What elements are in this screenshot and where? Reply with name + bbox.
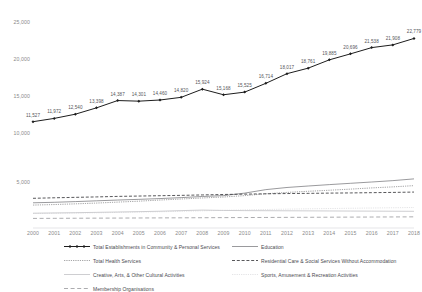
legend-item[interactable]: Sports, Amusement & Recreation Activitie… (232, 271, 358, 278)
legend-item[interactable]: Creative, Arts, & Other Cultural Activit… (64, 271, 185, 278)
x-tick-label: 2013 (300, 230, 316, 236)
x-tick-label: 2009 (216, 230, 232, 236)
legend-line-icon (64, 243, 90, 250)
x-tick-label: 2012 (279, 230, 295, 236)
x-tick-label: 2005 (131, 230, 147, 236)
x-tick-label: 2016 (364, 230, 380, 236)
legend-item[interactable]: Residential Care & Social Services Witho… (232, 257, 396, 264)
legend-line-icon (232, 271, 258, 278)
x-tick-label: 2008 (194, 230, 210, 236)
x-tick-label: 2000 (25, 230, 41, 236)
legend-label: Education (261, 244, 284, 250)
x-tick-label: 2015 (343, 230, 359, 236)
x-tick-label: 2002 (67, 230, 83, 236)
legend-item[interactable]: Education (232, 243, 284, 250)
chart-legend: Total Establishments in Community & Pers… (0, 243, 422, 289)
x-tick-label: 2018 (406, 230, 422, 236)
legend-label: Sports, Amusement & Recreation Activitie… (261, 272, 358, 278)
x-tick-label: 2001 (46, 230, 62, 236)
legend-label: Residential Care & Social Services Witho… (261, 258, 396, 264)
legend-label: Membership Organisations (93, 286, 154, 292)
legend-line-icon (232, 243, 258, 250)
legend-line-icon (64, 285, 90, 292)
legend-line-icon (64, 257, 90, 264)
legend-item[interactable]: Total Health Services (64, 257, 141, 264)
legend-item[interactable]: Membership Organisations (64, 285, 154, 292)
legend-item[interactable]: Total Establishments in Community & Pers… (64, 243, 220, 250)
x-tick-label: 2014 (321, 230, 337, 236)
x-tick-label: 2004 (110, 230, 126, 236)
series-line (33, 179, 414, 203)
series-line (33, 217, 414, 219)
legend-line-icon (232, 257, 258, 264)
x-tick-label: 2003 (89, 230, 105, 236)
series-line (33, 210, 414, 213)
x-tick-label: 2017 (385, 230, 401, 236)
x-tick-label: 2011 (258, 230, 274, 236)
x-tick-label: 2006 (152, 230, 168, 236)
series-line (33, 192, 414, 198)
legend-line-icon (64, 271, 90, 278)
bottom-panel-plot (0, 0, 422, 240)
legend-label: Total Establishments in Community & Pers… (93, 244, 220, 250)
x-tick-label: 2010 (237, 230, 253, 236)
x-tick-label: 2007 (173, 230, 189, 236)
legend-label: Creative, Arts, & Other Cultural Activit… (93, 272, 185, 278)
legend-label: Total Health Services (93, 258, 141, 264)
